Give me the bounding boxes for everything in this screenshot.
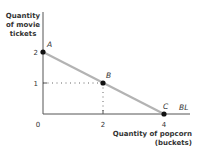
point-b-label: B: [106, 71, 111, 80]
x-axis-label-line2: (buckets): [155, 139, 192, 147]
y-axis-label-line3: tickets: [10, 30, 37, 38]
budget-line-label: BL: [179, 103, 188, 112]
x-tick-label-2: 2: [101, 121, 105, 129]
budget-line-chart: Quantity of movie tickets Quantity of po…: [0, 0, 198, 156]
point-a-label: A: [46, 40, 52, 49]
y-tick-label-1: 1: [34, 80, 38, 88]
point-c: [161, 111, 166, 116]
x-tick-label-4: 4: [162, 121, 167, 129]
x-axis-label-line1: Quantity of popcorn: [113, 130, 192, 138]
y-tick-label-2: 2: [34, 49, 38, 57]
y-axis-label-line2: of movie: [6, 21, 40, 29]
origin-label: 0: [36, 121, 40, 129]
y-axis-label-line1: Quantity: [6, 12, 41, 20]
point-b: [100, 80, 105, 85]
point-a: [40, 49, 45, 54]
point-c-label: C: [163, 102, 169, 111]
